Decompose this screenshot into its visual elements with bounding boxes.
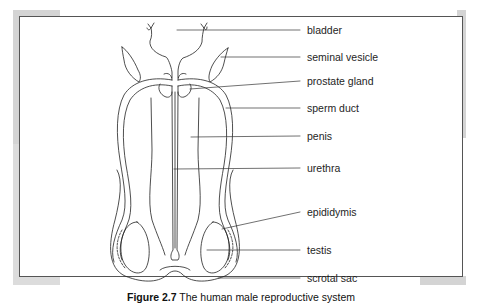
bladder-shape	[147, 23, 207, 78]
figure-caption-text: The human male reproductive system	[179, 291, 355, 303]
penis-shape	[150, 92, 200, 260]
label-sperm-duct: sperm duct	[307, 102, 359, 114]
label-bladder: bladder	[307, 24, 342, 36]
label-urethra: urethra	[307, 162, 340, 174]
leader-lines	[174, 30, 300, 278]
figure-number: Figure 2.7	[127, 291, 177, 303]
seminal-vesicle-shape	[122, 47, 228, 82]
label-epididymis: epididymis	[307, 206, 357, 218]
label-seminal-vesicle: seminal vesicle	[307, 51, 378, 63]
label-penis: penis	[307, 130, 332, 142]
label-prostate-gland: prostate gland	[307, 75, 374, 87]
label-testis: testis	[307, 244, 332, 256]
figure-caption: Figure 2.7 The human male reproductive s…	[127, 291, 355, 303]
label-scrotal-sac: scrotal sac	[307, 272, 357, 284]
